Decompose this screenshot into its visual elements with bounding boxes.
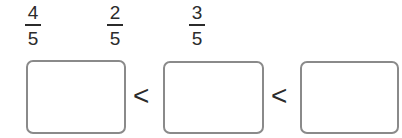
answer-box-1[interactable]	[26, 60, 126, 134]
denominator: 5	[107, 29, 123, 48]
numerator: 3	[189, 3, 205, 22]
fraction-bar	[107, 24, 123, 26]
less-than-symbol: <	[133, 82, 149, 110]
numerator: 4	[25, 3, 41, 22]
less-than-symbol: <	[271, 82, 287, 110]
answer-box-2[interactable]	[163, 61, 264, 134]
fraction-3-5: 3 5	[189, 3, 205, 48]
fraction-2-5: 2 5	[107, 3, 123, 48]
answer-box-3[interactable]	[300, 61, 399, 134]
denominator: 5	[189, 29, 205, 48]
fraction-4-5: 4 5	[25, 3, 41, 48]
numerator: 2	[107, 3, 123, 22]
fraction-bar	[25, 24, 41, 26]
fraction-bar	[189, 24, 205, 26]
denominator: 5	[25, 29, 41, 48]
